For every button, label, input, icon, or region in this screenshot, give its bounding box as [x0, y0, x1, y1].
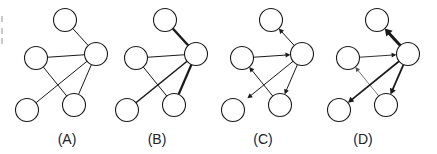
edge-hub-bottom_right	[179, 65, 192, 95]
panel-label-c: (C)	[243, 131, 283, 147]
edge-top-hub	[173, 28, 189, 45]
panel-label-d: (D)	[343, 131, 383, 147]
edge-hub-top	[389, 33, 401, 46]
arrowhead-icon	[355, 67, 360, 72]
node-left	[25, 47, 48, 70]
node-bottom_left	[222, 99, 245, 122]
edge-left-hub	[147, 55, 184, 57]
node-bottom_right	[163, 94, 186, 117]
arrowhead-icon	[285, 53, 290, 58]
node-bottom_right	[375, 94, 398, 117]
panel-a	[16, 9, 108, 122]
panel-label-a: (A)	[47, 131, 87, 147]
edge-hub-bottom_right	[79, 65, 92, 95]
edge-left-bottom_right	[43, 67, 67, 96]
node-hub	[291, 43, 314, 66]
node-bottom_right	[269, 94, 292, 117]
graph-figure: (A) (B) (C) (D)	[0, 0, 437, 154]
node-hub	[185, 43, 208, 66]
node-hub	[397, 43, 420, 66]
node-bottom_left	[116, 99, 139, 122]
edge-hub-bottom_left	[351, 61, 399, 100]
edge-top-hub	[73, 28, 89, 45]
node-bottom_left	[328, 99, 351, 122]
edge-hub-top	[281, 31, 294, 45]
edge-hub-bottom_right	[286, 65, 297, 91]
node-top	[154, 9, 177, 32]
edge-hub-bottom_right	[392, 65, 403, 91]
node-bottom_right	[63, 94, 86, 117]
panel-label-b: (B)	[137, 131, 177, 147]
node-top	[260, 9, 283, 32]
edge-left-hub	[359, 55, 392, 57]
arrowhead-icon	[391, 53, 396, 58]
node-left	[231, 47, 254, 70]
node-hub	[85, 43, 108, 66]
edge-left-hub	[47, 55, 84, 57]
edge-left-hub	[253, 55, 286, 57]
node-left	[337, 47, 360, 70]
node-top	[54, 9, 77, 32]
node-bottom_left	[16, 99, 39, 122]
panel-c	[222, 9, 314, 122]
node-left	[125, 47, 148, 70]
panel-d	[328, 9, 420, 122]
node-top	[366, 9, 389, 32]
panel-b	[116, 9, 208, 122]
